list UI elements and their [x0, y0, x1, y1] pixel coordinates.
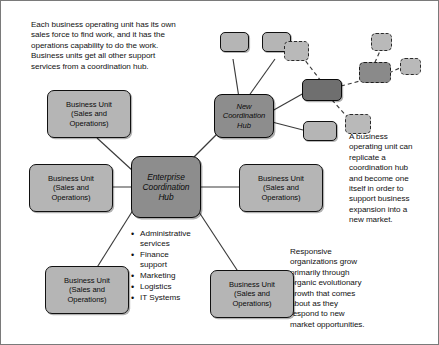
ghost-node-upper[interactable] — [284, 41, 309, 61]
business-unit-right[interactable]: Business Unit (Sales and Operations) — [239, 164, 323, 212]
business-unit-bottom-left[interactable]: Business Unit (Sales and Operations) — [45, 266, 129, 314]
service-item: Administrative services — [131, 229, 223, 250]
note-bottom-right: Responsive organizations grow primarily … — [290, 247, 395, 330]
satellite-box-lower-right[interactable] — [303, 121, 337, 141]
edge-dark-to-replicated-hub — [341, 81, 360, 86]
business-unit-top-left[interactable]: Business Unit (Sales and Operations) — [47, 90, 131, 138]
service-item: Finance support — [131, 250, 223, 271]
edge-dark-to-ghost-upper — [304, 59, 321, 81]
edge-newhub-to-lower-right-box — [272, 122, 303, 130]
ghost-node-top-far[interactable] — [371, 33, 392, 51]
ghost-replicated-hub[interactable] — [359, 62, 391, 83]
ghost-node-lower[interactable] — [345, 114, 371, 134]
new-coordination-hub[interactable]: New Coordination Hub — [214, 94, 274, 138]
edge-enterprise-to-new-hub — [193, 132, 219, 158]
note-top-left: Each business operating unit has its own… — [31, 20, 206, 72]
satellite-box-top-left[interactable] — [220, 32, 249, 52]
edge-newhub-to-small-top-right — [248, 59, 275, 97]
edge-newhub-to-dark-node — [272, 93, 304, 111]
diagram-canvas: Each business operating unit has its own… — [0, 0, 439, 345]
edge-newhub-to-small-top-left — [233, 59, 239, 98]
edge-enterprise-to-bu-bottom-left — [96, 207, 135, 269]
note-right-middle: A business operating unit can replicate … — [349, 132, 437, 226]
ghost-node-right[interactable] — [400, 58, 421, 75]
enterprise-coordination-hub[interactable]: Enterprise Coordination Hub — [131, 156, 201, 218]
business-unit-mid-left[interactable]: Business Unit (Sales and Operations) — [29, 164, 113, 212]
replicating-unit-node[interactable] — [302, 79, 342, 101]
business-unit-bottom-right[interactable]: Business Unit (Sales and Operations) — [210, 270, 294, 318]
